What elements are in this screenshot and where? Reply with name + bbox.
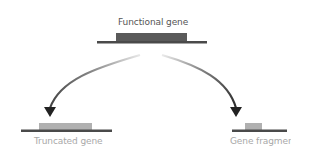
arrowhead-left-icon [44, 107, 56, 117]
truncated-gene-line [21, 130, 112, 133]
gene-fragment [232, 123, 287, 132]
gene-fragment-block [245, 123, 262, 130]
functional-gene-line [97, 41, 207, 44]
arrow-to-gene-fragment [162, 55, 242, 117]
arrowhead-right-icon [230, 107, 242, 117]
gene-fragment-label: Gene fragment [230, 136, 291, 146]
arrow-to-truncated-gene [44, 55, 140, 117]
functional-gene-label: Functional gene [118, 17, 188, 27]
truncated-gene [21, 123, 112, 132]
truncated-gene-block [39, 123, 92, 130]
gene-fragment-line [232, 130, 287, 133]
functional-gene-block [116, 33, 187, 42]
functional-gene [97, 33, 207, 44]
truncated-gene-label: Truncated gene [34, 136, 102, 146]
